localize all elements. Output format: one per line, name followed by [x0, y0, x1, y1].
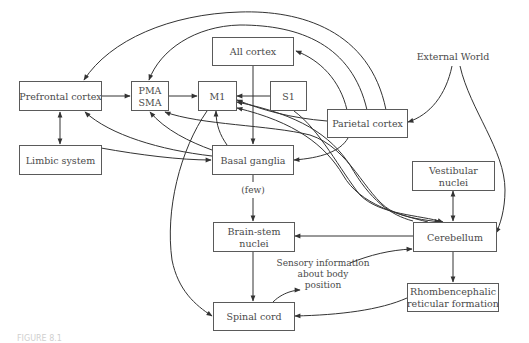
sensory-annotation: Sensory information about body position — [277, 258, 370, 290]
motor-system-diagram: Prefrontal cortex Limbic system PMA SMA … — [0, 0, 529, 343]
edge-basal-to-m1 — [216, 111, 227, 145]
node-label: Parietal cortex — [332, 118, 403, 129]
node-all-cortex: All cortex — [213, 38, 294, 66]
node-rhombencephalic-reticular-formation: Rhombencephalic reticular formation — [407, 284, 499, 312]
few-annotation: (few) — [241, 185, 264, 195]
node-spinal-cord: Spinal cord — [214, 303, 295, 331]
node-label-line2: SMA — [138, 97, 161, 108]
node-label: Limbic system — [26, 155, 95, 166]
node-label: Prefrontal cortex — [19, 91, 102, 102]
sensory-line3: position — [305, 280, 342, 290]
figure-caption: FIGURE 8.1 — [17, 334, 377, 343]
edge-parietal-to-basal — [294, 138, 348, 160]
node-basal-ganglia: Basal ganglia — [213, 146, 294, 175]
node-label-line2: nuclei — [239, 238, 268, 249]
node-label: M1 — [210, 91, 226, 102]
node-m1: M1 — [199, 82, 237, 111]
node-label-line2: reticular formation — [407, 298, 499, 309]
node-label-line1: Rhombencephalic — [410, 286, 496, 297]
node-vestibular-nuclei: Vestibular nuclei — [413, 162, 495, 191]
node-label: Basal ganglia — [221, 155, 286, 166]
sensory-line1: Sensory information — [277, 258, 370, 268]
node-prefrontal-cortex: Prefrontal cortex — [19, 82, 102, 111]
node-label-line2: nuclei — [439, 177, 468, 188]
node-label: Cerebellum — [427, 232, 483, 243]
node-label-line1: Brain-stem — [228, 226, 281, 237]
node-parietal-cortex: Parietal cortex — [328, 110, 408, 138]
node-pma-sma: PMA SMA — [132, 82, 169, 111]
node-label-line1: PMA — [139, 85, 162, 96]
node-label-line1: Vestibular — [428, 165, 478, 176]
node-label: S1 — [282, 91, 295, 102]
edge-spinal-to-cerebellum — [273, 290, 300, 302]
node-cerebellum: Cerebellum — [414, 223, 497, 252]
node-limbic-system: Limbic system — [20, 146, 102, 175]
node-brainstem-nuclei: Brain-stem nuclei — [214, 223, 295, 252]
node-s1: S1 — [271, 82, 307, 111]
external-world-label: External World — [417, 51, 490, 62]
edge-world-to-cerebellum — [460, 66, 505, 233]
node-label: Spinal cord — [226, 311, 281, 322]
node-label: All cortex — [229, 46, 277, 57]
edge-rhomb-to-spinal — [295, 298, 407, 316]
sensory-line2: about body — [298, 269, 350, 279]
edge-world-to-parietal — [408, 66, 452, 122]
